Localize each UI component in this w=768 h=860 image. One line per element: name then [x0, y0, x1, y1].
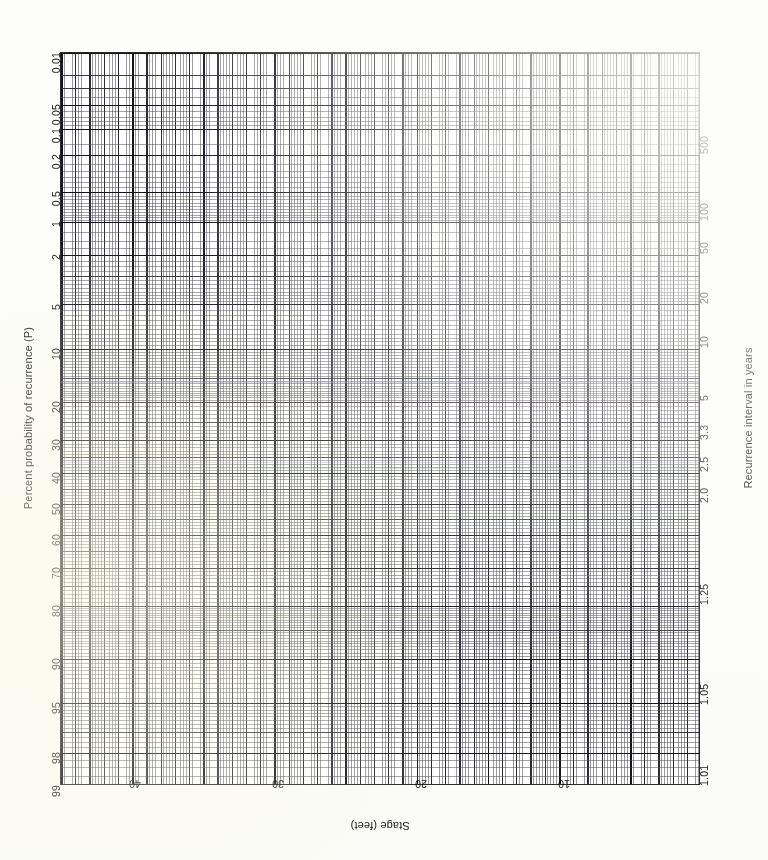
left-axis-tick-label: 20 — [50, 401, 62, 413]
right-axis-tick-label: 1.01 — [698, 764, 710, 785]
gridline-horizontal — [61, 535, 699, 536]
gridline-horizontal — [61, 670, 699, 671]
gridline-horizontal — [61, 501, 699, 502]
gridline-horizontal — [61, 196, 699, 197]
left-axis-tick-label: 0.5 — [50, 191, 62, 206]
gridline-horizontal — [61, 248, 699, 249]
gridline-horizontal — [61, 586, 699, 587]
gridline-horizontal — [61, 370, 699, 371]
gridline-horizontal — [61, 75, 699, 76]
gridline-horizontal — [61, 622, 699, 623]
gridline-horizontal — [61, 406, 699, 407]
gridline-horizontal — [61, 447, 699, 448]
gridline-horizontal — [61, 753, 699, 754]
right-axis-tick-label: 10 — [698, 335, 710, 347]
gridline-horizontal — [61, 568, 699, 569]
gridline-horizontal — [61, 444, 699, 445]
gridline-horizontal — [61, 88, 699, 89]
gridline-horizontal — [61, 547, 699, 548]
gridline-horizontal — [61, 395, 699, 396]
gridline-horizontal — [61, 192, 699, 193]
gridline-horizontal — [61, 483, 699, 484]
gridline-horizontal — [61, 391, 699, 392]
gridline-horizontal — [61, 125, 699, 126]
gridline-horizontal — [61, 75, 699, 76]
gridline-horizontal — [61, 630, 699, 631]
gridline-horizontal — [61, 473, 699, 474]
right-axis-tick-label: 20 — [698, 291, 710, 303]
gridline-horizontal — [61, 630, 699, 631]
scan-color-fringe-layer — [61, 53, 699, 784]
scan-color-fringe — [61, 468, 699, 469]
gridline-horizontal — [61, 414, 699, 415]
gridline-horizontal — [61, 617, 699, 618]
gridline-horizontal — [61, 400, 699, 401]
gridline-horizontal — [61, 199, 699, 200]
gridline-horizontal — [61, 519, 699, 520]
right-axis-tick-label: 500 — [698, 136, 710, 154]
left-axis-tick-label: 90 — [50, 658, 62, 670]
vertical-heavy-gridlines — [61, 53, 699, 784]
gridline-horizontal — [61, 586, 699, 587]
gridline-horizontal — [61, 451, 699, 452]
gridline-horizontal — [61, 361, 699, 362]
gridline-horizontal — [61, 692, 699, 693]
gridline-horizontal — [61, 532, 699, 533]
left-axis-tick-label: 50 — [50, 503, 62, 515]
left-axis-tick-label: 40 — [50, 472, 62, 484]
gridline-horizontal — [61, 528, 699, 529]
gridline-horizontal — [61, 276, 699, 277]
gridline-horizontal — [61, 632, 699, 633]
gridline-horizontal — [61, 437, 699, 438]
gridline-horizontal — [61, 703, 699, 704]
gridline-horizontal — [61, 430, 699, 431]
gridline-horizontal — [61, 155, 699, 156]
gridline-horizontal — [61, 606, 699, 607]
right-axis-tick-label: 3.3 — [698, 425, 710, 440]
gridline-horizontal — [61, 364, 699, 365]
gridline-horizontal — [61, 525, 699, 526]
scan-color-fringe — [61, 575, 699, 576]
right-axis-title: Recurrence interval in years — [742, 347, 754, 488]
left-axis-tick-label: 70 — [50, 567, 62, 579]
gridline-horizontal — [61, 378, 699, 379]
gridline-horizontal — [61, 674, 699, 675]
gridline-horizontal — [61, 479, 699, 480]
gridline-horizontal — [61, 203, 699, 204]
gridline-horizontal — [61, 222, 699, 223]
gridline-horizontal — [61, 171, 699, 172]
gridline-horizontal — [61, 376, 699, 377]
gridline-horizontal — [61, 129, 699, 130]
gridline-horizontal — [61, 129, 699, 130]
gridline-horizontal — [61, 688, 699, 689]
gridline-horizontal — [61, 467, 699, 468]
gridline-horizontal — [61, 88, 699, 89]
gridline-horizontal — [61, 590, 699, 591]
gridline-horizontal — [61, 486, 699, 487]
gridline-horizontal — [61, 358, 699, 359]
bottom-axis-ticks: 40302010 — [60, 790, 700, 816]
gridline-horizontal — [61, 105, 699, 106]
gridline-horizontal — [61, 667, 699, 668]
gridline-horizontal — [61, 460, 699, 461]
gridline-horizontal — [61, 426, 699, 427]
gridline-horizontal — [61, 544, 699, 545]
gridline-horizontal — [61, 440, 699, 441]
gridline-horizontal — [61, 635, 699, 636]
gridline-horizontal — [61, 678, 699, 679]
gridline-horizontal — [61, 271, 699, 272]
gridline-horizontal — [61, 551, 699, 552]
gridline-horizontal — [61, 653, 699, 654]
gridline-horizontal — [61, 716, 699, 717]
gridline-horizontal — [61, 261, 699, 262]
gridline-horizontal — [61, 522, 699, 523]
gridline-horizontal — [61, 538, 699, 539]
gridline-horizontal — [61, 292, 699, 293]
scan-color-fringe — [61, 381, 699, 382]
probability-plot-grid[interactable] — [60, 52, 700, 785]
gridline-horizontal — [61, 338, 699, 339]
gridline-horizontal — [61, 222, 699, 223]
gridline-horizontal — [61, 433, 699, 434]
left-axis-tick-label: 80 — [50, 605, 62, 617]
right-axis-tick-label: 100 — [698, 203, 710, 221]
